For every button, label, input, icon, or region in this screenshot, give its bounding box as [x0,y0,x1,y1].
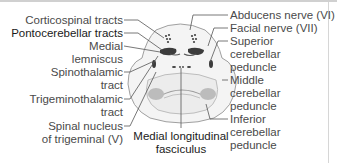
middle-cerebellar-peduncle-left [148,88,164,100]
label-pontocerebellar-tracts: Pontocerebellar tracts [11,27,123,40]
label-facial-nerve: Facial nerve (VII) [230,22,318,35]
label-corticospinal-tracts: Corticospinal tracts [25,14,123,27]
label-trigeminothalamic-tract: Trigeminothalamictract [29,93,123,119]
label-inferior-cerebellar-peduncle: Inferiorcerebellarpeduncle [230,113,281,152]
label-spinal-nucleus-trigeminal: Spinal nucleusof trigeminal (V) [42,120,123,146]
label-middle-cerebellar-peduncle: Middlecerebellarpeduncle [230,74,281,113]
label-abducens-nerve: Abducens nerve (VI) [230,9,335,22]
label-spinothalamic-tract: Spinothalamictract [51,66,123,92]
label-medial-longitudinal-fasciculus: Medial longitudinalfasciculus [130,130,232,156]
middle-cerebellar-peduncle-right [200,88,216,100]
label-superior-cerebellar-peduncle: Superiorcerebellarpeduncle [230,35,281,74]
spinothalamic-right [209,60,213,68]
label-medial-lemniscus: Mediallemniscus [72,40,123,66]
